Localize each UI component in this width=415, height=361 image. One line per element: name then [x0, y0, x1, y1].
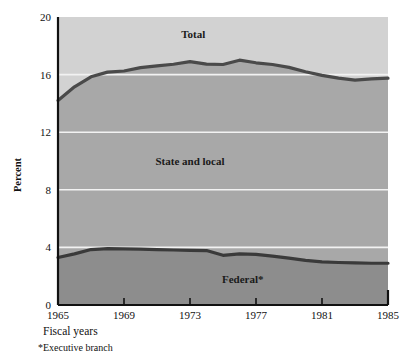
x-tick-label-1985: 1985	[377, 309, 400, 321]
x-axis-tick-labels: 196519691973197719811985	[47, 309, 400, 321]
y-tick-label-16: 16	[40, 69, 52, 81]
series-label-total: Total	[181, 28, 205, 40]
y-axis-tick-labels: 048121620	[40, 11, 52, 311]
x-tick-label-1977: 1977	[245, 309, 268, 321]
x-tick-label-1973: 1973	[179, 309, 202, 321]
area-chart-svg: 196519691973197719811985 048121620 Feder…	[0, 0, 415, 361]
y-tick-label-20: 20	[40, 11, 52, 23]
y-tick-label-8: 8	[46, 184, 52, 196]
y-axis-title: Percent	[12, 157, 23, 192]
x-tick-label-1981: 1981	[311, 309, 333, 321]
y-tick-label-4: 4	[46, 241, 52, 253]
y-tick-label-12: 12	[40, 126, 51, 138]
x-axis-caption: Fiscal years	[43, 325, 98, 338]
series-label-state-and-local: State and local	[155, 155, 224, 167]
footnote: *Executive branch	[38, 342, 113, 353]
series-label-federal: Federal*	[222, 273, 264, 285]
x-tick-label-1969: 1969	[113, 309, 136, 321]
y-tick-label-0: 0	[46, 299, 52, 311]
chart-figure: 196519691973197719811985 048121620 Feder…	[0, 0, 415, 361]
